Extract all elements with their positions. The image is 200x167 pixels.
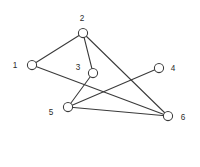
graph-edge-2-3 — [83, 33, 93, 73]
graph-node-label-6: 6 — [181, 113, 186, 122]
graph-node-label-5: 5 — [49, 108, 54, 117]
graph-node-label-2: 2 — [80, 14, 85, 23]
nodes-layer — [27, 28, 172, 120]
graph-canvas: 123456 — [0, 0, 200, 167]
graph-edge-4-5 — [68, 68, 159, 107]
graph-node-label-4: 4 — [171, 64, 176, 73]
graph-edge-5-6 — [68, 107, 168, 116]
graph-node-6 — [163, 111, 172, 120]
graph-node-4 — [154, 63, 163, 72]
graph-diagram: 123456 — [0, 0, 200, 167]
graph-node-2 — [78, 28, 87, 37]
graph-node-3 — [88, 68, 97, 77]
graph-node-label-3: 3 — [76, 63, 81, 72]
graph-node-5 — [63, 102, 72, 111]
graph-node-label-1: 1 — [13, 61, 18, 70]
edges-layer — [32, 33, 168, 116]
graph-edge-1-2 — [32, 33, 83, 65]
graph-node-1 — [27, 60, 36, 69]
